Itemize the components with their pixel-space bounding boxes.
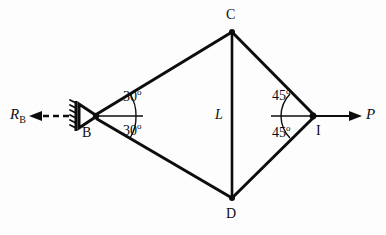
truss-diagram-svg [0, 0, 386, 235]
node-label-B: B [82, 126, 91, 140]
degree-symbol-icon: o [286, 123, 291, 133]
node-label-C: C [226, 8, 235, 22]
force-label-RB: RB [10, 107, 26, 122]
angle-label-B-upper-value: 30 [123, 89, 137, 104]
force-label-RB-symbol: R [10, 106, 19, 122]
force-RB-arrowhead [29, 111, 42, 121]
angle-label-B-lower-value: 30 [123, 123, 137, 138]
node-label-D: D [226, 207, 236, 221]
force-label-RB-subscript: B [19, 114, 26, 125]
angle-label-I-upper: 45o [272, 89, 291, 103]
force-arrow-P [313, 111, 362, 121]
degree-symbol-icon: o [137, 121, 142, 131]
length-label-L: L [215, 108, 223, 122]
joint-dots [229, 29, 316, 201]
joint-dot-D [229, 195, 235, 201]
force-P-arrowhead [349, 111, 362, 121]
angle-label-I-lower-value: 45 [272, 125, 286, 140]
member-BD [97, 119, 232, 198]
angle-label-B-lower: 30o [123, 124, 142, 138]
degree-symbol-icon: o [286, 86, 291, 96]
force-arrow-RB [29, 111, 69, 121]
angle-label-I-lower: 45o [272, 126, 291, 140]
joint-dot-C [229, 29, 235, 35]
member-BC [97, 32, 232, 114]
truss-diagram-figure: C D B I L 30o 30o 45o 45o RB P [0, 0, 386, 235]
angle-label-B-upper: 30o [123, 90, 142, 104]
angle-label-I-upper-value: 45 [272, 88, 286, 103]
force-label-P: P [366, 107, 375, 122]
degree-symbol-icon: o [137, 87, 142, 97]
node-label-I: I [316, 124, 321, 138]
